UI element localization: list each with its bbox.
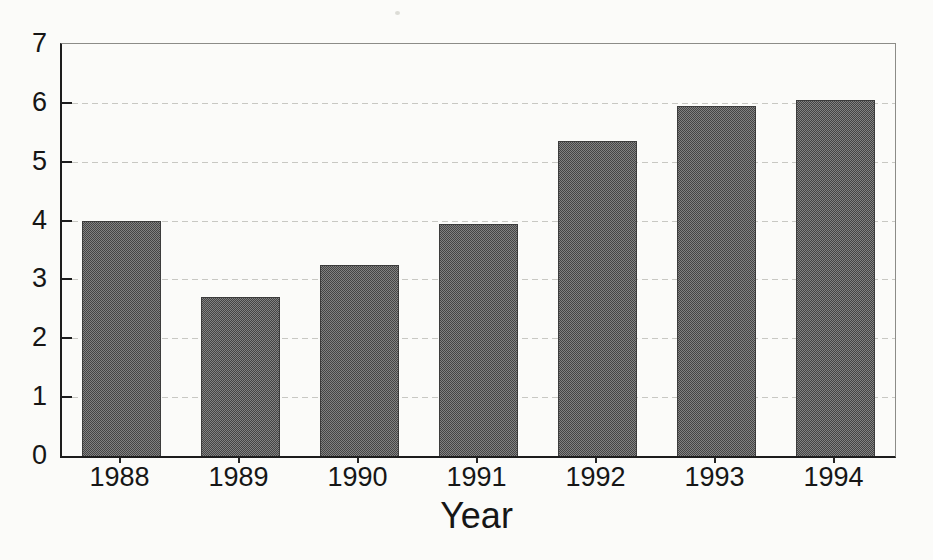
bar-slot bbox=[776, 44, 895, 456]
y-tick-label: 3 bbox=[32, 265, 47, 292]
y-axis-labels: 01234567 bbox=[0, 43, 60, 455]
bar bbox=[439, 224, 518, 456]
bar-slot bbox=[300, 44, 419, 456]
bar bbox=[201, 297, 280, 456]
x-tick-label: 1993 bbox=[655, 463, 774, 493]
x-tick-label: 1992 bbox=[536, 463, 655, 493]
bar-slot bbox=[657, 44, 776, 456]
bar bbox=[82, 221, 161, 456]
bar bbox=[677, 106, 756, 456]
y-tick-label: 2 bbox=[32, 324, 47, 351]
x-tick-label: 1989 bbox=[179, 463, 298, 493]
y-tick-label: 6 bbox=[32, 88, 47, 115]
y-tick-label: 4 bbox=[32, 206, 47, 233]
bar bbox=[796, 100, 875, 456]
bar bbox=[320, 265, 399, 456]
y-tick-label: 5 bbox=[32, 147, 47, 174]
bar-slot bbox=[538, 44, 657, 456]
x-tick-label: 1990 bbox=[298, 463, 417, 493]
x-tick-label: 1991 bbox=[417, 463, 536, 493]
bar-series bbox=[62, 44, 895, 456]
bar-slot bbox=[62, 44, 181, 456]
scan-speck bbox=[395, 11, 400, 15]
x-tick-label: 1994 bbox=[774, 463, 893, 493]
y-tick-label: 0 bbox=[32, 442, 47, 469]
x-tick-label: 1988 bbox=[60, 463, 179, 493]
x-axis-title: Year bbox=[60, 496, 893, 536]
y-tick-label: 1 bbox=[32, 383, 47, 410]
y-tick-label: 7 bbox=[32, 30, 47, 57]
x-axis-labels: 1988198919901991199219931994 bbox=[60, 463, 893, 493]
bar-slot bbox=[181, 44, 300, 456]
scanned-bar-chart-figure: 01234567 1988198919901991199219931994 Ye… bbox=[0, 0, 933, 560]
bar bbox=[558, 141, 637, 456]
bar-slot bbox=[419, 44, 538, 456]
plot-area bbox=[60, 43, 896, 458]
